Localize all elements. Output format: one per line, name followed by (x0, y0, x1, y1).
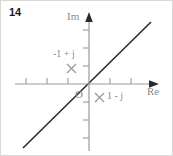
complex-plane-plot (1, 1, 172, 155)
point-label-minus1-plus-j: -1 + j (53, 49, 75, 59)
complex-plane-figure: 14 (0, 0, 173, 156)
imaginary-axis-label: Im (67, 11, 79, 22)
origin-label: O (75, 89, 83, 100)
real-axis-label: Re (147, 86, 159, 97)
real-axis-ticks (26, 78, 131, 84)
real-axis-group (15, 78, 159, 88)
point-marker-1-minus-j (95, 93, 104, 102)
point-marker-minus1-plus-j (67, 64, 76, 73)
diagonal-line (23, 22, 151, 148)
point-label-1-minus-j: 1 - j (107, 91, 123, 101)
diagonal-line-group (23, 22, 151, 148)
imaginary-axis-arrow-icon (85, 12, 93, 22)
